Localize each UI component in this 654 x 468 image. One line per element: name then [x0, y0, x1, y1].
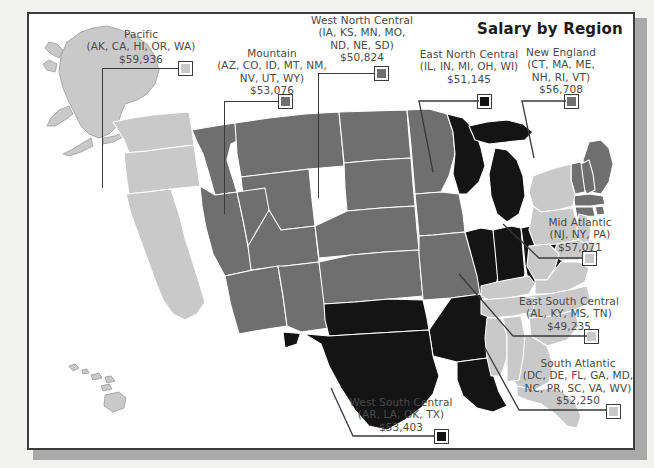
- label-enc-name: East North Central: [420, 48, 519, 60]
- leader-esc: [457, 272, 589, 340]
- label-mountain-states-2: NV, UT, WY): [240, 72, 304, 84]
- leader-newengland: [516, 100, 568, 160]
- label-pacific-value: $59,936: [61, 53, 221, 65]
- map-frame: Salary by Region .st{stroke:#ffffff;stro…: [27, 12, 635, 450]
- leader-pacific-v: [102, 68, 103, 188]
- label-pacific-states: (AK, CA, HI, OR, WA): [86, 40, 195, 52]
- label-newengland-states-2: NH, RI, VT): [532, 71, 590, 83]
- label-wnc-states-1: (IA, KS, MN, MO,: [318, 26, 405, 38]
- label-pacific: Pacific (AK, CA, HI, OR, WA) $59,936: [61, 28, 221, 65]
- label-newengland-value: $56,708: [509, 83, 613, 95]
- region-pacific: [113, 112, 205, 320]
- leader-southatlantic: [483, 346, 609, 414]
- label-enc-states: (IL, IN, MI, OH, WI): [420, 60, 519, 72]
- swatch-west-north-central: [374, 66, 389, 81]
- leader-pacific-h: [102, 68, 179, 69]
- label-wnc-name: West North Central: [311, 14, 413, 26]
- leader-midatlantic: [501, 222, 585, 262]
- leader-wnc-h: [318, 73, 375, 74]
- label-pacific-name: Pacific: [124, 28, 158, 40]
- leader-wsc: [329, 386, 437, 440]
- region-new-england: [571, 140, 613, 217]
- state-hawaii: [69, 364, 126, 412]
- label-newengland-name: New England: [526, 46, 596, 58]
- leader-mountain-v: [224, 101, 225, 214]
- swatch-mountain: [278, 94, 293, 109]
- swatch-pacific: [178, 61, 193, 76]
- leader-wnc-v: [318, 73, 319, 198]
- leader-mountain-h: [224, 101, 279, 102]
- label-new-england: New England (CT, MA, ME, NH, RI, VT) $56…: [509, 46, 613, 96]
- chart-canvas: Salary by Region .st{stroke:#ffffff;stro…: [0, 0, 654, 468]
- leader-enc: [415, 100, 481, 174]
- label-wnc-states-2: ND, NE, SD): [330, 39, 394, 51]
- label-newengland-states-1: (CT, MA, ME,: [527, 58, 595, 70]
